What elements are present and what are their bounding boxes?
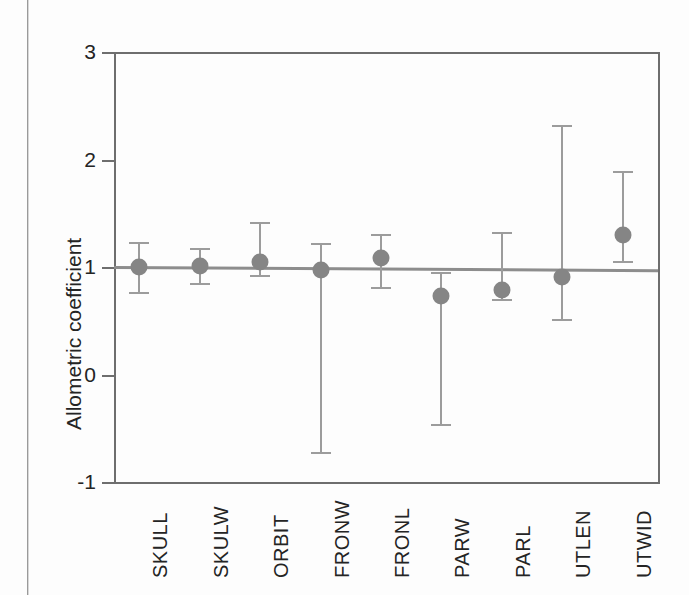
- data-point-UTWID: [614, 226, 631, 243]
- x-tick-label-PARW: PARW: [451, 518, 474, 578]
- data-point-PARW: [433, 288, 450, 305]
- x-tick-label-FRONL: FRONL: [391, 508, 414, 578]
- y-tick-mark-3: [102, 52, 114, 54]
- y-tick-label-0: 0: [66, 363, 96, 387]
- x-tick-label-UTLEN: UTLEN: [572, 510, 595, 578]
- error-cap-top-ORBIT: [250, 222, 270, 224]
- figure-page: Allometric coefficient 3210-1 SKULLSKULW…: [0, 0, 689, 595]
- error-cap-bottom-UTLEN: [552, 319, 572, 321]
- error-bar-UTLEN: [561, 125, 563, 319]
- error-bar-UTWID: [622, 171, 624, 260]
- error-cap-bottom-PARW: [431, 424, 451, 426]
- error-cap-top-PARW: [431, 272, 451, 274]
- x-tick-label-SKULL: SKULL: [149, 512, 172, 578]
- data-point-FRONL: [373, 250, 390, 267]
- y-tick-label-1: 1: [66, 255, 96, 279]
- y-tick-label--1: -1: [66, 470, 96, 494]
- plot-right-border: [658, 52, 660, 484]
- data-point-ORBIT: [252, 253, 269, 270]
- error-cap-top-UTWID: [613, 171, 633, 173]
- error-cap-bottom-SKULW: [190, 283, 210, 285]
- data-point-FRONW: [312, 262, 329, 279]
- y-tick-label-2: 2: [66, 148, 96, 172]
- y-tick-mark-1: [102, 267, 114, 269]
- data-point-UTLEN: [554, 268, 571, 285]
- error-cap-top-SKULL: [129, 242, 149, 244]
- error-cap-top-FRONW: [311, 243, 331, 245]
- y-tick-mark--1: [102, 482, 114, 484]
- error-cap-top-PARL: [492, 232, 512, 234]
- y-tick-label-3: 3: [66, 40, 96, 64]
- allometric-coefficient-chart: Allometric coefficient 3210-1 SKULLSKULW…: [0, 0, 689, 595]
- error-cap-bottom-ORBIT: [250, 275, 270, 277]
- y-tick-mark-2: [102, 160, 114, 162]
- error-cap-bottom-FRONW: [311, 452, 331, 454]
- error-cap-bottom-UTWID: [613, 261, 633, 263]
- error-cap-bottom-PARL: [492, 299, 512, 301]
- x-tick-label-SKULW: SKULW: [210, 506, 233, 578]
- data-point-PARL: [493, 281, 510, 298]
- x-tick-label-ORBIT: ORBIT: [270, 514, 293, 578]
- plot-top-border: [114, 52, 658, 54]
- error-cap-bottom-FRONL: [371, 287, 391, 289]
- y-tick-mark-0: [102, 375, 114, 377]
- error-cap-bottom-SKULL: [129, 292, 149, 294]
- x-axis-spine: [114, 482, 660, 484]
- x-tick-label-PARL: PARL: [512, 525, 535, 578]
- error-cap-top-UTLEN: [552, 125, 572, 127]
- error-cap-top-FRONL: [371, 234, 391, 236]
- data-point-SKULL: [131, 259, 148, 276]
- error-cap-top-SKULW: [190, 248, 210, 250]
- data-point-SKULW: [191, 257, 208, 274]
- x-tick-label-FRONW: FRONW: [331, 500, 354, 578]
- x-tick-label-UTWID: UTWID: [633, 510, 656, 578]
